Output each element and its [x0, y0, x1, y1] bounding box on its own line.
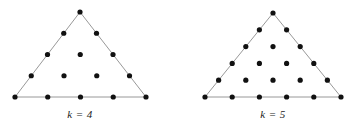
lattice-dot [311, 61, 316, 66]
lattice-dot [284, 61, 289, 66]
figure-canvas: k = 4 k = 5 [0, 0, 356, 127]
lattice-dot [284, 94, 289, 99]
lattice-dot [29, 73, 34, 78]
lattice-dot [298, 78, 303, 83]
lattice-dot [270, 44, 275, 49]
lattice-dot [61, 31, 66, 36]
lattice-dot [257, 27, 262, 32]
lattice-dot [230, 94, 235, 99]
lattice-dot [270, 10, 275, 15]
lattice-dot [78, 52, 83, 57]
lattice-dot [78, 94, 83, 99]
lattice-dot [257, 94, 262, 99]
lattice-dot [230, 61, 235, 66]
lattice-dot [110, 52, 115, 57]
lattice-dot [325, 78, 330, 83]
lattice-dot [338, 94, 343, 99]
lattice-dot [216, 78, 221, 83]
panel-label-right: k = 5 [260, 108, 285, 120]
lattice-dot [311, 94, 316, 99]
lattice-dot [298, 44, 303, 49]
lattice-dot [12, 94, 17, 99]
lattice-dot [45, 52, 50, 57]
lattice-dot [77, 9, 82, 14]
lattice-dot [61, 73, 66, 78]
lattice-dot [94, 73, 99, 78]
lattice-dot [143, 94, 148, 99]
lattice-dot [127, 73, 132, 78]
lattice-dot [202, 94, 207, 99]
lattice-dot [45, 94, 50, 99]
lattice-dot [284, 27, 289, 32]
panel-label-left: k = 4 [67, 108, 92, 120]
lattice-dot [243, 78, 248, 83]
lattice-dot [94, 31, 99, 36]
lattice-dot [243, 44, 248, 49]
figure-background [0, 0, 356, 127]
triangular-lattice-figure: k = 4 k = 5 [0, 0, 356, 127]
lattice-dot [270, 78, 275, 83]
lattice-dot [257, 61, 262, 66]
lattice-dot [111, 94, 116, 99]
